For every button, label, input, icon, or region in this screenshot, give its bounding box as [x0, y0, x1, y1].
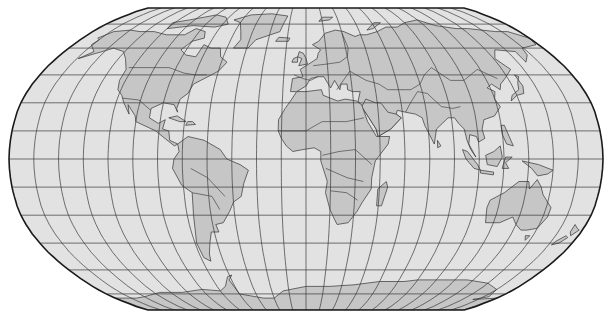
- world-map: [0, 0, 612, 319]
- world-map-svg: [0, 0, 612, 319]
